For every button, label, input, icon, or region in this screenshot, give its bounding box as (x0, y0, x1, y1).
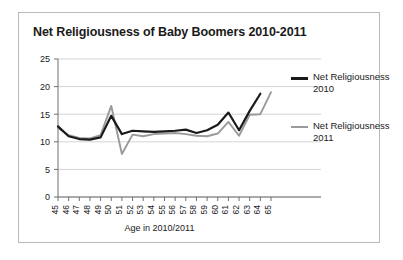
svg-text:0: 0 (45, 192, 50, 202)
chart-container: Net Religiousness of Baby Boomers 2010-2… (18, 12, 380, 243)
svg-text:62: 62 (231, 205, 241, 215)
svg-text:48: 48 (82, 205, 92, 215)
legend-label-2010-line2: 2010 (313, 83, 395, 95)
legend-swatch-2010 (291, 77, 308, 80)
svg-text:64: 64 (252, 205, 262, 215)
svg-text:56: 56 (167, 205, 177, 215)
chart-legend: Net Religiousness 2010 Net Religiousness… (291, 71, 395, 169)
legend-label-2011-line1: Net Religiousness (313, 120, 395, 132)
legend-item-2011[interactable]: Net Religiousness 2011 (291, 120, 395, 143)
legend-item-2010[interactable]: Net Religiousness 2010 (291, 71, 395, 94)
x-axis-title: Age in 2010/2011 (125, 223, 195, 233)
data-series-group (58, 92, 271, 154)
svg-text:45: 45 (50, 205, 60, 215)
svg-text:47: 47 (71, 205, 81, 215)
series-line-net-religiousness-2011 (58, 92, 271, 154)
svg-text:54: 54 (146, 205, 156, 215)
svg-text:5: 5 (45, 165, 50, 175)
series-line-net-religiousness-2010 (58, 94, 260, 140)
svg-text:57: 57 (178, 205, 188, 215)
svg-text:15: 15 (40, 110, 50, 120)
legend-swatch-2011 (291, 126, 308, 128)
svg-text:25: 25 (40, 54, 50, 64)
svg-text:20: 20 (40, 82, 50, 92)
svg-text:46: 46 (61, 205, 71, 215)
svg-text:61: 61 (220, 205, 230, 215)
svg-text:49: 49 (93, 205, 103, 215)
svg-text:51: 51 (114, 205, 124, 215)
svg-text:53: 53 (135, 205, 145, 215)
svg-text:59: 59 (199, 205, 209, 215)
svg-text:58: 58 (188, 205, 198, 215)
y-axis-tick-labels: 0510152025 (40, 54, 50, 202)
svg-text:52: 52 (125, 205, 135, 215)
svg-text:60: 60 (210, 205, 220, 215)
gridlines-group (58, 59, 321, 197)
svg-text:55: 55 (157, 205, 167, 215)
svg-text:63: 63 (242, 205, 252, 215)
legend-label-2010-line1: Net Religiousness (313, 71, 395, 83)
legend-label-2011-line2: 2011 (313, 132, 395, 144)
x-axis-tick-labels: 4546474849505152535455565758596061626364… (50, 205, 273, 215)
svg-text:65: 65 (263, 205, 273, 215)
x-axis-tick-marks (58, 197, 271, 201)
svg-text:50: 50 (103, 205, 113, 215)
svg-text:10: 10 (40, 137, 50, 147)
